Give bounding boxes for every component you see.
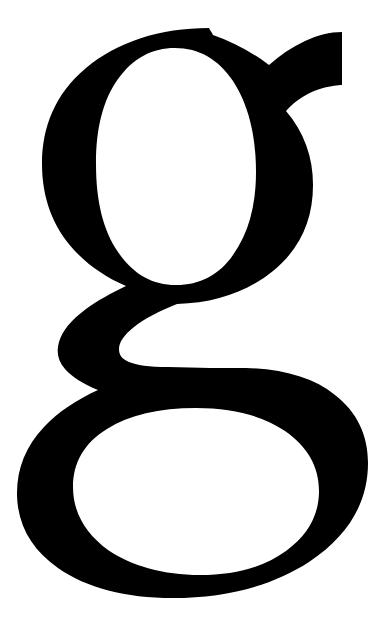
glyph-svg: g — [0, 0, 374, 618]
glyph-canvas: g — [0, 0, 374, 618]
